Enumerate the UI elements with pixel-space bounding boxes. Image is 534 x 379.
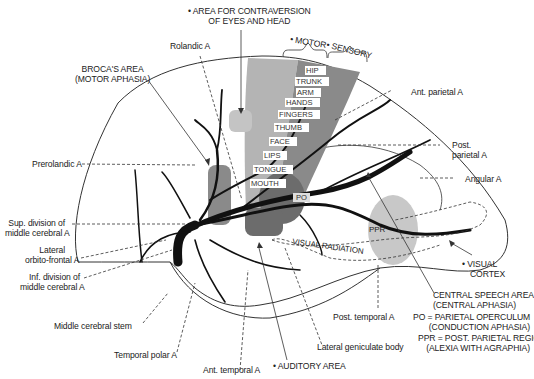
label-rolandic-a: Rolandic A — [170, 41, 210, 51]
label-lateral-geniculate-body: Lateral geniculate body — [317, 342, 404, 352]
label-line: Sup. division of — [5, 218, 65, 228]
label-prerolandic-a: Prerolandic A — [32, 159, 82, 169]
label-line: PPR = POST. PARIETAL REGION — [418, 333, 530, 343]
homunculus-mouth: MOUTH — [250, 179, 286, 188]
label-line: orbito-frontal A — [25, 255, 79, 265]
label-broca-area: BROCA'S AREA (MOTOR APHASIA) — [75, 64, 150, 84]
label-visual-cortex: • VISUAL CORTEX — [462, 259, 505, 279]
label-line: PO = PARIETAL OPERCULUM — [413, 312, 530, 322]
label-line: OF EYES AND HEAD — [188, 16, 311, 26]
label-contraversion: • AREA FOR CONTRAVERSION OF EYES AND HEA… — [188, 6, 311, 26]
contraversion-area — [229, 110, 252, 132]
label-line: (ALEXIA WITH AGRAPHIA) — [418, 343, 530, 353]
label-auditory-area: • AUDITORY AREA — [273, 361, 346, 371]
label-line: parietal A — [452, 150, 487, 160]
label-line: (CENTRAL APHASIA) — [433, 300, 534, 310]
label-line: Inf. division of — [20, 272, 80, 282]
label-middle-cerebral-stem: Middle cerebral stem — [54, 321, 132, 331]
tag-po: PO — [293, 193, 310, 202]
tag-ppr: PPR — [369, 225, 385, 235]
label-post-temporal-a: Post. temporal A — [333, 312, 394, 322]
legend-ppr: PPR = POST. PARIETAL REGION (ALEXIA WITH… — [418, 333, 530, 353]
label-line: • AREA FOR CONTRAVERSION — [188, 6, 311, 16]
label-line: BROCA'S AREA — [75, 64, 150, 74]
label-lateral-orbito-frontal: Lateral orbito-frontal A — [25, 245, 79, 265]
homunculus-trunk: TRUNK — [295, 77, 329, 86]
homunculus-lips: LIPS — [263, 151, 287, 160]
homunculus-face: FACE — [269, 137, 297, 146]
label-line: (CONDUCTION APHASIA) — [413, 322, 530, 332]
legend-po: PO = PARIETAL OPERCULUM (CONDUCTION APHA… — [413, 312, 530, 332]
label-line: CENTRAL SPEECH AREA — [433, 290, 534, 300]
homunculus-tongue: TONGUE — [253, 165, 293, 174]
homunculus-hip: HIP — [305, 66, 326, 75]
label-post-parietal-a: Post. parietal A — [452, 140, 487, 160]
label-line: (MOTOR APHASIA) — [75, 74, 150, 84]
label-line: CORTEX — [462, 269, 505, 279]
label-temporal-polar-a: Temporal polar A — [114, 350, 177, 360]
label-line: Post. — [452, 140, 487, 150]
brain-diagram: • AREA FOR CONTRAVERSION OF EYES AND HEA… — [0, 0, 534, 379]
homunculus-arm: ARM — [296, 88, 321, 97]
homunculus-hands: HANDS — [285, 98, 320, 107]
homunculus-thumb: THUMB — [274, 123, 309, 132]
label-line: middle cerebral A — [5, 228, 65, 238]
label-inf-division: Inf. division of middle cerebral A — [20, 272, 80, 292]
label-central-speech-area: CENTRAL SPEECH AREA (CENTRAL APHASIA) — [433, 290, 534, 310]
label-angular-a: Angular A — [465, 174, 501, 184]
label-ant-temporal-a: Ant. temporal A — [203, 365, 260, 375]
label-line: Lateral — [25, 245, 79, 255]
homunculus-fingers: FINGERS — [278, 110, 320, 119]
label-line: middle cerebral A — [20, 282, 80, 292]
label-sup-division: Sup. division of middle cerebral A — [5, 218, 65, 238]
label-ant-parietal-a: Ant. parietal A — [411, 87, 463, 97]
label-line: • VISUAL — [462, 259, 505, 269]
